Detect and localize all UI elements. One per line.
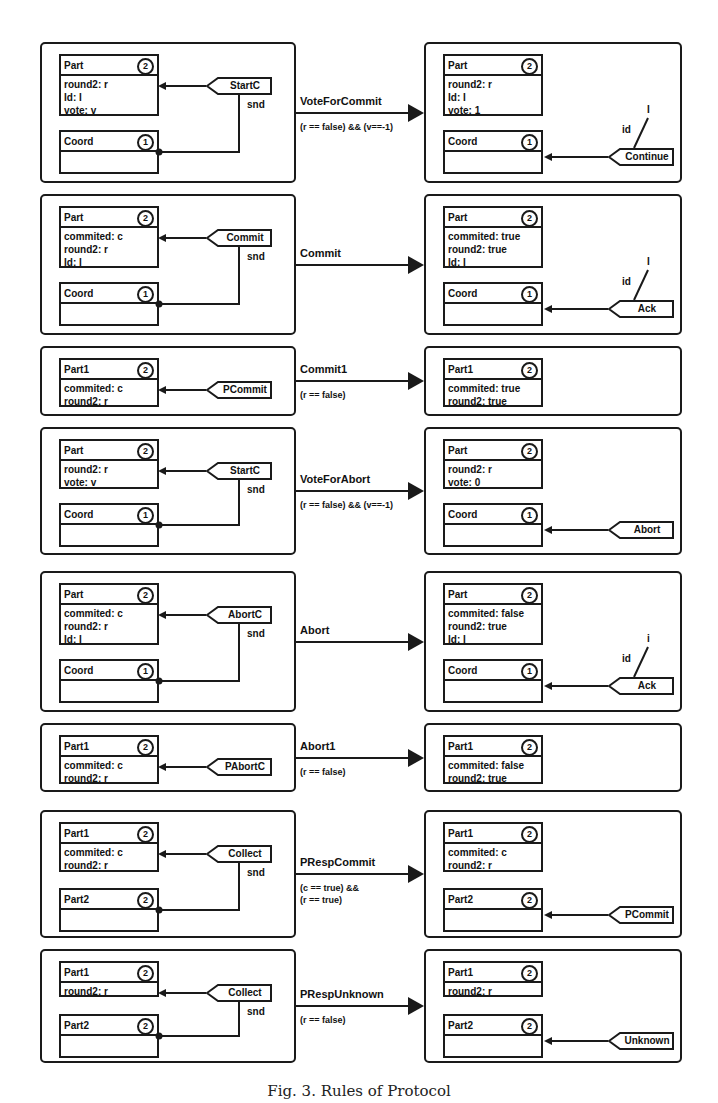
node-attribute: round2: r bbox=[64, 243, 154, 256]
node-header: Coord1 bbox=[445, 284, 541, 304]
message-node: PCommit bbox=[608, 906, 674, 924]
node-attributes bbox=[445, 1036, 541, 1053]
multiplicity-circle-icon: 2 bbox=[137, 739, 154, 756]
multiplicity-circle-icon: 2 bbox=[137, 58, 154, 75]
node-attributes: round2: rvote: v bbox=[61, 461, 157, 491]
lhs-panel: Part12round2: rPart22Collectsnd bbox=[40, 949, 296, 1063]
node-header: Part12 bbox=[445, 963, 541, 983]
multiplicity-circle-icon: 2 bbox=[521, 58, 538, 75]
param-label: id bbox=[622, 276, 631, 287]
node-type: Coord bbox=[448, 288, 477, 299]
message-node: PAbortC bbox=[206, 758, 272, 776]
node-attribute: commited: c bbox=[64, 230, 154, 243]
node-attribute: commited: c bbox=[64, 382, 154, 395]
node-attributes: commited: cround2: rId: I bbox=[61, 228, 157, 271]
message-node: Ack bbox=[608, 300, 674, 318]
node-attribute: vote: 0 bbox=[448, 476, 538, 489]
node-type: Coord bbox=[448, 136, 477, 147]
rule-condition: (r == true) bbox=[300, 894, 342, 906]
node-attribute: round2: r bbox=[448, 78, 538, 91]
node-attributes: commited: cround2: r bbox=[445, 844, 541, 874]
node-header: Part12 bbox=[61, 963, 157, 983]
message-label: AbortC bbox=[220, 606, 270, 624]
multiplicity-circle-icon: 2 bbox=[521, 739, 538, 756]
node-header: Part2 bbox=[445, 585, 541, 605]
rule-condition: (r == false) && (v==-1) bbox=[300, 121, 393, 133]
rule-name: Commit1 bbox=[300, 363, 347, 375]
message-label: Commit bbox=[220, 229, 270, 247]
rule-name: PRespCommit bbox=[300, 856, 375, 868]
node-type: Part bbox=[448, 212, 467, 223]
rule-condition: (r == false) bbox=[300, 766, 346, 778]
node-attributes: round2: rId: Ivote: 1 bbox=[445, 76, 541, 119]
node-type: Coord bbox=[448, 665, 477, 676]
node-type: Part bbox=[64, 589, 83, 600]
lhs-panel: Part2round2: rvote: vCoord1StartCsnd bbox=[40, 427, 296, 555]
node-attributes bbox=[61, 304, 157, 321]
multiplicity-circle-icon: 2 bbox=[137, 587, 154, 604]
multiplicity-circle-icon: 1 bbox=[521, 507, 538, 524]
node-attributes bbox=[61, 152, 157, 169]
rule-name: PRespUnknown bbox=[300, 988, 384, 1000]
multiplicity-circle-icon: 2 bbox=[137, 1018, 154, 1035]
node-attribute: round2: r bbox=[448, 463, 538, 476]
node-box: Part22 bbox=[443, 1014, 543, 1058]
rule-name: VoteForCommit bbox=[300, 95, 382, 107]
message-node: StartC bbox=[206, 462, 272, 480]
multiplicity-circle-icon: 1 bbox=[137, 663, 154, 680]
node-header: Part2 bbox=[445, 56, 541, 76]
rhs-panel: Part12commited: trueround2: true bbox=[424, 346, 682, 416]
lhs-panel: Part2round2: rId: Ivote: vCoord1StartCsn… bbox=[40, 42, 296, 183]
node-type: Coord bbox=[64, 288, 93, 299]
message-label: PAbortC bbox=[220, 758, 270, 776]
node-header: Part22 bbox=[445, 890, 541, 910]
message-label: Ack bbox=[622, 677, 672, 695]
node-type: Part bbox=[448, 60, 467, 71]
node-box: Coord1 bbox=[59, 130, 159, 174]
node-attribute: round2: r bbox=[64, 620, 154, 633]
rule-condition: (c == true) && bbox=[300, 882, 359, 894]
node-box: Coord1 bbox=[443, 282, 543, 326]
node-attribute: commited: c bbox=[64, 607, 154, 620]
node-box: Coord1 bbox=[443, 503, 543, 547]
node-type: Part1 bbox=[64, 741, 89, 752]
node-attributes: commited: falseround2: true bbox=[445, 757, 541, 787]
message-label: Abort bbox=[622, 521, 672, 539]
multiplicity-circle-icon: 1 bbox=[521, 286, 538, 303]
node-header: Part12 bbox=[445, 737, 541, 757]
node-attribute: Id: I bbox=[64, 256, 154, 269]
snd-edge-label: snd bbox=[247, 1006, 265, 1017]
node-box: Coord1 bbox=[59, 659, 159, 703]
snd-edge-label: snd bbox=[247, 628, 265, 639]
node-header: Part22 bbox=[61, 890, 157, 910]
node-attributes: commited: cround2: r bbox=[61, 380, 157, 410]
node-attribute: round2: r bbox=[64, 463, 154, 476]
node-attribute: commited: c bbox=[64, 846, 154, 859]
multiplicity-circle-icon: 2 bbox=[521, 892, 538, 909]
node-attributes bbox=[61, 1036, 157, 1053]
rhs-panel: Part12commited: falseround2: true bbox=[424, 723, 682, 792]
lhs-panel: Part12commited: cround2: rPart22Collects… bbox=[40, 810, 296, 938]
node-attribute: round2: true bbox=[448, 620, 538, 633]
multiplicity-circle-icon: 1 bbox=[521, 663, 538, 680]
rhs-panel: Part2round2: rvote: 0Coord1Abort bbox=[424, 427, 682, 555]
rule-row: Part12commited: cround2: rPCommitCommit1… bbox=[0, 346, 718, 416]
message-node: Collect bbox=[206, 984, 272, 1002]
node-type: Part bbox=[64, 445, 83, 456]
rhs-panel: Part2round2: rId: Ivote: 1Coord1Continue… bbox=[424, 42, 682, 183]
message-node: StartC bbox=[206, 77, 272, 95]
node-header: Coord1 bbox=[61, 132, 157, 152]
node-attribute: commited: false bbox=[448, 607, 538, 620]
node-attributes bbox=[445, 681, 541, 698]
node-box: Part2round2: rId: Ivote: v bbox=[59, 54, 159, 116]
node-box: Part2commited: trueround2: trueId: I bbox=[443, 206, 543, 268]
message-label: Collect bbox=[220, 984, 270, 1002]
node-box: Coord1 bbox=[443, 659, 543, 703]
node-header: Part12 bbox=[445, 360, 541, 380]
rhs-panel: Part12commited: cround2: rPart22PCommit bbox=[424, 810, 682, 938]
node-attributes: commited: cround2: r bbox=[61, 757, 157, 787]
node-type: Coord bbox=[64, 509, 93, 520]
node-attribute: commited: c bbox=[64, 759, 154, 772]
node-attribute: round2: r bbox=[448, 859, 538, 872]
node-attributes bbox=[445, 152, 541, 169]
